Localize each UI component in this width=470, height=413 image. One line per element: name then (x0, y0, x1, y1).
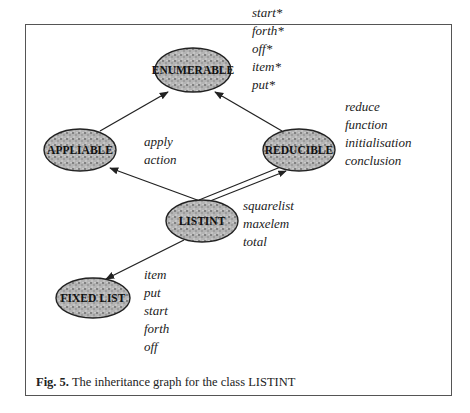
node-appliable[interactable]: APPLIABLE (44, 129, 116, 171)
feature-item: squarelist (243, 197, 294, 215)
svg-text:REDUCIBLE: REDUCIBLE (265, 144, 334, 156)
feature-item: start* (252, 4, 284, 22)
node-listint[interactable]: LISTINT (166, 200, 238, 242)
svg-text:LISTINT: LISTINT (179, 215, 226, 227)
edge-listint-appliable (110, 168, 200, 201)
features-reducible: reduce function initialisation conclusio… (345, 98, 411, 170)
features-appliable: apply action (144, 133, 177, 169)
svg-text:ENUMERABLE: ENUMERABLE (152, 64, 235, 76)
feature-item: initialisation (345, 134, 411, 152)
feature-item: maxelem (243, 215, 294, 233)
feature-item: apply (144, 133, 177, 151)
features-enumerable: start* forth* off* item* put* (252, 4, 284, 94)
feature-item: function (345, 116, 411, 134)
caption-label: Fig. 5. (36, 375, 69, 389)
figure-caption: Fig. 5. The inheritance graph for the cl… (36, 375, 295, 390)
node-enumerable[interactable]: ENUMERABLE (152, 48, 235, 92)
inheritance-graph: ENUMERABLE APPLIABLE REDUCIBLE LISTINT F… (0, 0, 470, 413)
feature-item: item (144, 266, 169, 284)
feature-item: put (144, 284, 169, 302)
node-reducible[interactable]: REDUCIBLE (263, 129, 335, 171)
feature-item: reduce (345, 98, 411, 116)
edge-appliable-enumerable (100, 92, 168, 131)
feature-item: off (144, 338, 169, 356)
node-fixed-list[interactable]: FIXED LIST (56, 278, 130, 318)
svg-text:FIXED LIST: FIXED LIST (61, 292, 126, 304)
feature-item: item* (252, 58, 284, 76)
svg-text:APPLIABLE: APPLIABLE (47, 144, 113, 156)
feature-item: start (144, 302, 169, 320)
feature-item: forth* (252, 22, 284, 40)
feature-item: put* (252, 76, 284, 94)
feature-item: off* (252, 40, 284, 58)
feature-item: forth (144, 320, 169, 338)
feature-item: total (243, 233, 294, 251)
features-listint: squarelist maxelem total (243, 197, 294, 251)
feature-item: conclusion (345, 152, 411, 170)
edge-reducible-enumerable (215, 92, 282, 131)
caption-text: The inheritance graph for the class LIST… (69, 375, 295, 389)
features-fixed-list: item put start forth off (144, 266, 169, 356)
feature-item: action (144, 151, 177, 169)
